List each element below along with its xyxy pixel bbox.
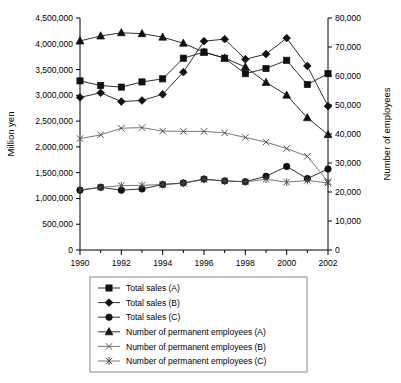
cross-marker — [304, 153, 311, 160]
cross-marker — [242, 134, 249, 141]
square-marker — [325, 71, 331, 77]
diamond-marker — [324, 102, 332, 110]
left-axis-title: Million yen — [5, 112, 16, 157]
right-axis-tick-label: 40,000 — [335, 129, 361, 139]
square-marker — [106, 285, 112, 291]
square-marker — [263, 65, 269, 71]
cross-marker — [283, 145, 290, 152]
axes-group: 0500,0001,000,0001,500,0002,000,0002,500… — [35, 13, 361, 268]
x-axis-tick-label: 2000 — [277, 258, 296, 268]
left-axis-tick-label: 3,500,000 — [35, 65, 73, 75]
diamond-marker — [138, 97, 146, 105]
right-axis-tick-label: 50,000 — [335, 100, 361, 110]
diamond-marker — [303, 62, 311, 70]
square-marker — [180, 55, 186, 61]
left-axis-tick-label: 4,000,000 — [35, 39, 73, 49]
cross-marker — [97, 132, 104, 139]
legend-item-square[interactable]: Total sales (A) — [98, 283, 180, 293]
chart-legend: Total sales (A)Total sales (B)Total sale… — [90, 277, 307, 372]
x-axis-tick-label: 2002 — [319, 258, 338, 268]
square-marker — [98, 82, 104, 88]
plot-series-group — [76, 29, 332, 194]
circle-marker — [283, 163, 290, 170]
series-line — [80, 52, 328, 87]
diamond-marker — [117, 98, 125, 106]
diamond-marker — [262, 50, 270, 58]
left-axis-tick-label: 2,500,000 — [35, 116, 73, 126]
legend-item-label: Number of permanent employees (A) — [126, 327, 266, 337]
legend-item-asterisk[interactable]: Number of permanent employees (C) — [98, 356, 266, 366]
square-marker — [304, 81, 310, 87]
right-axis-tick-label: 80,000 — [335, 13, 361, 23]
series-asterisk — [77, 175, 332, 194]
right-axis-tick-label: 20,000 — [335, 187, 361, 197]
legend-item-triangle[interactable]: Number of permanent employees (A) — [98, 327, 266, 337]
left-axis-tick-label: 1,000,000 — [35, 193, 73, 203]
x-axis-tick-label: 1990 — [71, 258, 90, 268]
series-diamond — [76, 34, 332, 110]
square-marker — [242, 71, 248, 77]
triangle-marker — [262, 78, 270, 85]
left-axis-tick-label: 3,000,000 — [35, 90, 73, 100]
right-axis-tick-label: 30,000 — [335, 158, 361, 168]
diamond-marker — [200, 37, 208, 45]
legend-item-label: Total sales (B) — [126, 298, 180, 308]
square-marker — [118, 84, 124, 90]
left-axis-tick-label: 500,000 — [42, 219, 73, 229]
x-axis-tick-label: 1996 — [195, 258, 214, 268]
x-axis-tick-label: 1994 — [153, 258, 172, 268]
circle-marker — [106, 314, 113, 321]
series-line — [80, 128, 328, 182]
right-axis-tick-label: 10,000 — [335, 216, 361, 226]
diamond-marker — [76, 94, 84, 102]
legend-item-label: Total sales (C) — [126, 312, 180, 322]
triangle-marker — [138, 29, 146, 36]
legend-item-cross[interactable]: Number of permanent employees (B) — [98, 342, 266, 352]
triangle-marker — [283, 91, 291, 98]
square-marker — [284, 57, 290, 63]
right-axis-tick-label: 60,000 — [335, 71, 361, 81]
circle-marker — [325, 166, 332, 173]
square-marker — [160, 76, 166, 82]
left-axis-tick-label: 4,500,000 — [35, 13, 73, 23]
x-axis-tick-label: 1992 — [112, 258, 131, 268]
legend-item-label: Total sales (A) — [126, 283, 180, 293]
x-axis-tick-label: 1998 — [236, 258, 255, 268]
chart-figure: Million yen Number of employees 0500,000… — [0, 0, 401, 383]
triangle-marker — [241, 63, 249, 70]
diamond-marker — [97, 89, 105, 97]
cross-marker — [263, 139, 270, 146]
triangle-marker — [105, 328, 113, 335]
legend-item-label: Number of permanent employees (C) — [126, 356, 266, 366]
diamond-marker — [105, 299, 113, 307]
square-marker — [139, 79, 145, 85]
right-axis-title: Number of employees — [381, 87, 392, 180]
left-axis-tick-label: 0 — [68, 245, 73, 255]
left-axis-tick-label: 2,000,000 — [35, 142, 73, 152]
square-marker — [77, 78, 83, 84]
dual-axis-line-chart: Million yen Number of employees 0500,000… — [0, 0, 401, 383]
diamond-marker — [283, 34, 291, 42]
triangle-marker — [117, 29, 125, 36]
right-axis-tick-label: 0 — [335, 245, 340, 255]
legend-item-diamond[interactable]: Total sales (B) — [98, 298, 180, 308]
legend-item-label: Number of permanent employees (B) — [126, 342, 266, 352]
left-axis-tick-label: 1,500,000 — [35, 168, 73, 178]
legend-item-circle[interactable]: Total sales (C) — [98, 312, 180, 322]
right-axis-tick-label: 70,000 — [335, 42, 361, 52]
